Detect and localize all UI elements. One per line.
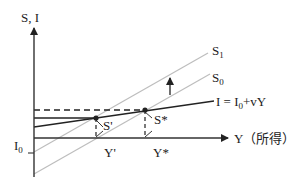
s0-line (34, 74, 210, 174)
s-prime-label: S' (103, 118, 113, 133)
s-star-leader (145, 112, 152, 118)
s-prime-leader (96, 120, 103, 127)
s1-line (34, 53, 208, 152)
s0-label: S0 (212, 70, 224, 87)
s-star-label: S* (154, 112, 168, 127)
y-star-label: Y* (153, 145, 169, 160)
s-prime-point (93, 115, 98, 120)
i0-label: I0 (14, 138, 23, 155)
savings-investment-diagram: S, I Y（所得） S1 S0 I = I0+vY S' S* Y' Y* I… (0, 0, 306, 190)
diagram-canvas: S, I Y（所得） S1 S0 I = I0+vY S' S* Y' Y* I… (0, 0, 306, 190)
x-axis-label: Y（所得） (234, 131, 295, 146)
s-star-point (142, 107, 147, 112)
investment-label: I = I0+vY (216, 94, 267, 111)
s1-label: S1 (212, 43, 224, 60)
y-prime-label: Y' (104, 145, 116, 160)
y-star-leader (145, 131, 152, 137)
y-axis-label: S, I (21, 10, 39, 25)
